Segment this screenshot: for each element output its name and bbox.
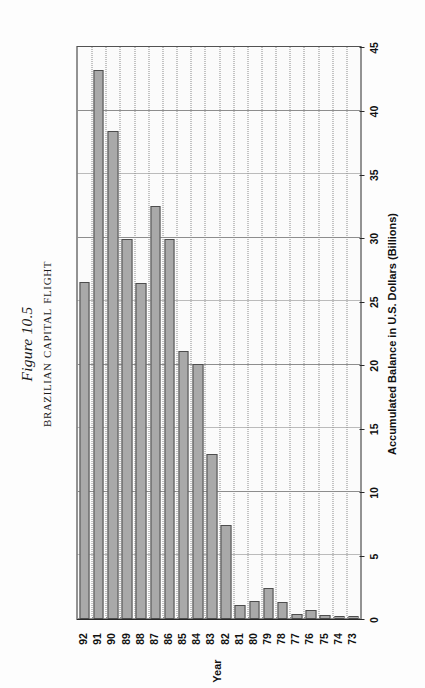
chart-bar <box>93 70 103 619</box>
chart-bar <box>220 525 230 619</box>
chart-bar <box>206 454 216 619</box>
category-axis-label: 83 <box>203 626 215 652</box>
category-axis-label: 86 <box>161 626 173 652</box>
chart-bar <box>164 239 174 619</box>
value-axis-tick <box>359 365 364 366</box>
category-gridline <box>261 47 263 619</box>
chart-bar <box>121 239 131 619</box>
chart-plot-area <box>76 46 361 620</box>
category-gridline <box>247 47 249 619</box>
value-axis-tick <box>359 48 364 49</box>
category-axis-label: 89 <box>119 626 131 652</box>
value-axis-label: 25 <box>367 291 379 313</box>
value-axis-label: 0 <box>367 609 379 631</box>
chart-bar <box>192 364 202 619</box>
category-axis-label: 88 <box>133 626 145 652</box>
value-axis-label: 45 <box>367 37 379 59</box>
value-axis-title: Accumulated Balance in U.S. Dollars (Bil… <box>385 184 397 484</box>
category-axis-label: 81 <box>232 626 244 652</box>
category-axis-label: 79 <box>260 626 272 652</box>
value-axis-tick <box>359 111 364 112</box>
category-axis-label: 91 <box>90 626 102 652</box>
category-axis-label: 75 <box>317 626 329 652</box>
chart-bar <box>348 616 358 619</box>
value-axis-label: 15 <box>367 418 379 440</box>
category-axis-label: 77 <box>288 626 300 652</box>
chart-bar <box>150 206 160 619</box>
chart-bar <box>234 605 244 619</box>
category-axis-label: 74 <box>331 626 343 652</box>
value-axis-tick <box>359 238 364 239</box>
category-axis-title: Year <box>210 654 222 688</box>
value-axis-label: 20 <box>367 355 379 377</box>
chart-bar <box>178 351 188 619</box>
category-gridline <box>275 47 277 619</box>
category-gridline <box>289 47 291 619</box>
category-axis-label: 85 <box>175 626 187 652</box>
chart-bar <box>291 614 301 619</box>
category-axis-label: 92 <box>76 626 88 652</box>
value-axis-label: 30 <box>367 228 379 250</box>
chart-bar <box>277 602 287 619</box>
value-axis-tick <box>359 429 364 430</box>
category-axis-label: 90 <box>104 626 116 652</box>
value-axis-label: 40 <box>367 101 379 123</box>
category-gridline <box>233 47 235 619</box>
chart-bar <box>135 283 145 619</box>
value-axis-tick <box>359 556 364 557</box>
chart-bar <box>334 616 344 619</box>
value-axis-tick <box>359 620 364 621</box>
value-axis-tick <box>359 302 364 303</box>
chart-bar <box>107 131 117 619</box>
value-axis-tick <box>359 492 364 493</box>
value-axis-label: 10 <box>367 482 379 504</box>
value-axis-label: 35 <box>367 164 379 186</box>
page-title: Brazilian Capital Flight <box>35 0 55 688</box>
category-gridline <box>318 47 320 619</box>
category-gridline <box>346 47 348 619</box>
chart-bar <box>249 601 259 619</box>
chart-bar <box>305 610 315 619</box>
category-axis-label: 82 <box>218 626 230 652</box>
category-axis-label: 80 <box>246 626 258 652</box>
category-axis-label: 87 <box>147 626 159 652</box>
category-gridline <box>303 47 305 619</box>
category-axis-label: 76 <box>302 626 314 652</box>
figure-canvas: Figure 10.5 Brazilian Capital Flight 051… <box>0 0 425 688</box>
figure-number: Figure 10.5 <box>16 0 35 688</box>
chart-bar <box>79 282 89 619</box>
category-axis-label: 73 <box>345 626 357 652</box>
scanned-page: Figure 10.5 Brazilian Capital Flight 051… <box>0 0 425 688</box>
category-axis-label: 78 <box>274 626 286 652</box>
value-axis-tick <box>359 175 364 176</box>
category-axis-label: 84 <box>189 626 201 652</box>
figure-title-block: Figure 10.5 Brazilian Capital Flight <box>16 0 55 688</box>
value-axis-label: 5 <box>367 545 379 567</box>
category-gridline <box>332 47 334 619</box>
chart-bar <box>319 615 329 619</box>
chart-bar <box>263 589 273 620</box>
